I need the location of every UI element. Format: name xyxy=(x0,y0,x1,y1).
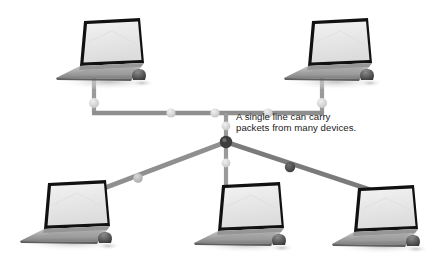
network-diagram: A single line can carry packets from man… xyxy=(0,0,443,259)
laptop-lid xyxy=(308,18,372,66)
packet-dot xyxy=(317,98,327,108)
laptop-base xyxy=(332,229,418,247)
laptop-base xyxy=(56,63,144,81)
laptop-base xyxy=(194,228,284,246)
packet-dot xyxy=(89,98,99,108)
laptop-base xyxy=(284,63,372,81)
laptop-base xyxy=(20,226,110,244)
annotation-text: A single line can carry packets from man… xyxy=(236,111,396,134)
laptop-bottom-right xyxy=(332,185,432,254)
laptop-lid xyxy=(44,180,110,229)
laptop-top-left xyxy=(56,18,158,90)
packet-dot xyxy=(166,108,175,117)
laptop-lid xyxy=(218,182,284,231)
packet-dot xyxy=(222,159,231,168)
laptop-lid xyxy=(354,185,418,232)
hub-node xyxy=(220,136,232,148)
packet-dot xyxy=(133,173,143,183)
packet-dot xyxy=(222,122,231,131)
laptop-bottom-center xyxy=(194,182,298,253)
laptop-lid xyxy=(80,18,144,66)
packet-dot xyxy=(285,162,295,172)
laptop-top-right xyxy=(284,18,386,90)
laptop-bottom-left xyxy=(20,180,124,251)
packet-dot xyxy=(210,108,219,117)
